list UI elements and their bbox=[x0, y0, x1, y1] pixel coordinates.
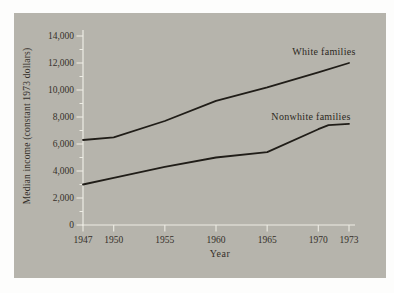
y-tick-label: 14,000 bbox=[48, 31, 74, 41]
y-tick-label: 12,000 bbox=[48, 58, 74, 68]
x-tick-label: 1970 bbox=[309, 235, 328, 245]
y-axis-title: Median income (constant 1973 dollars) bbox=[22, 48, 32, 205]
x-tick-label: 1955 bbox=[155, 235, 174, 245]
data-line-white-families bbox=[83, 63, 349, 140]
y-tick-label: 4,000 bbox=[53, 166, 75, 176]
chart-panel: 02,0004,0006,0008,00010,00012,00014,0001… bbox=[14, 13, 386, 278]
series-label-nonwhite-families: Nonwhite families bbox=[271, 111, 350, 122]
x-axis-title: Year bbox=[210, 248, 230, 259]
y-tick-label: 0 bbox=[69, 220, 74, 230]
series-label-white-families: White families bbox=[292, 46, 355, 57]
x-tick-label: 1950 bbox=[104, 235, 123, 245]
y-tick-label: 10,000 bbox=[48, 85, 74, 95]
x-tick-label: 1965 bbox=[258, 235, 277, 245]
x-tick-label: 1960 bbox=[207, 235, 226, 245]
data-line-nonwhite-families bbox=[83, 124, 349, 185]
y-tick-label: 6,000 bbox=[53, 139, 75, 149]
y-tick-label: 8,000 bbox=[53, 112, 75, 122]
x-tick-label: 1973 bbox=[340, 235, 359, 245]
x-tick-label: 1947 bbox=[74, 235, 93, 245]
figure: 02,0004,0006,0008,00010,00012,00014,0001… bbox=[0, 0, 394, 293]
y-tick-label: 2,000 bbox=[53, 193, 75, 203]
